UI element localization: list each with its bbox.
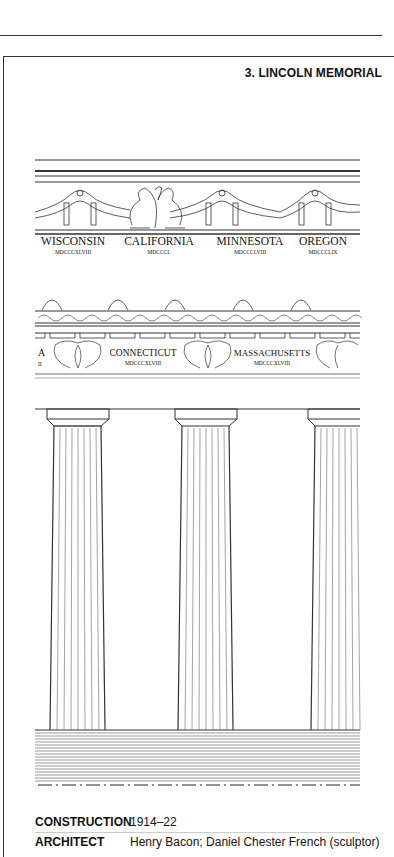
- eagle-ornament: [130, 187, 185, 228]
- upper-state-labels: WISCONSIN MDCCCXLVIII CALIFORNIA MDCCCL …: [41, 235, 348, 255]
- state-year-partial: II: [38, 361, 42, 367]
- construction-row: CONSTRUCTION1914–22: [35, 815, 177, 829]
- state-name-partial: A: [38, 347, 46, 358]
- lower-state-labels: A II CONNECTICUT MDCCCXLVIII MASSACHUSET…: [38, 347, 310, 367]
- scroll-band: [35, 311, 362, 333]
- stylobate-steps: [35, 730, 360, 781]
- wreath-ornaments: [54, 341, 358, 368]
- state-year: MDCCCXLVIII: [55, 249, 91, 255]
- lower-frieze-base-lines: [35, 374, 360, 378]
- construction-value: 1914–22: [130, 815, 177, 829]
- antefix-row: [42, 300, 311, 310]
- state-name: WISCONSIN: [41, 235, 106, 247]
- state-year: MDCCCL: [147, 249, 171, 255]
- column: [175, 409, 237, 730]
- details-divider: [35, 832, 360, 833]
- architect-value: Henry Bacon; Daniel Chester French (scul…: [130, 835, 379, 849]
- state-year: MDCCCLIX: [308, 249, 337, 255]
- state-year: MDCCCLVIII: [234, 249, 266, 255]
- architect-row: ARCHITECTHenry Bacon; Daniel Chester Fre…: [35, 835, 379, 849]
- state-year: MDCCCXLVIII: [125, 360, 161, 366]
- state-name: MINNESOTA: [217, 235, 284, 247]
- state-year: MDCCCXLVIII: [254, 360, 290, 366]
- state-name: CALIFORNIA: [124, 235, 194, 247]
- dentil-row: [35, 333, 360, 338]
- state-name: CONNECTICUT: [109, 348, 176, 358]
- upper-cornice-lines: [35, 160, 360, 234]
- column-partial: [308, 409, 360, 730]
- construction-label: CONSTRUCTION: [35, 815, 130, 829]
- garland-swags: [35, 190, 360, 225]
- architect-label: ARCHITECT: [35, 835, 130, 849]
- column: [47, 409, 109, 730]
- columns: [47, 409, 360, 730]
- state-name: MASSACHUSETTS: [234, 348, 311, 358]
- state-name: OREGON: [299, 235, 348, 247]
